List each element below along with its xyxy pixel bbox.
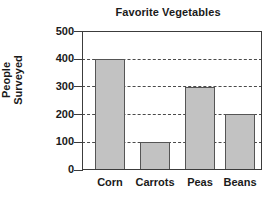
y-axis-title: People Surveyed — [0, 30, 40, 130]
bar-beans[interactable] — [225, 114, 255, 170]
x-axis-tick-labels: Corn Carrots Peas Beans — [82, 176, 262, 194]
x-tick-label-beans: Beans — [210, 176, 270, 188]
bars-layer — [82, 31, 262, 170]
y-tick-label-500: 500 — [40, 26, 74, 37]
bar-peas[interactable] — [185, 87, 215, 170]
y-tick-label-100: 100 — [40, 136, 74, 147]
y-axis-title-line-1: People — [0, 30, 12, 130]
y-tick-label-300: 300 — [40, 81, 74, 92]
plot-area — [82, 31, 262, 170]
bar-corn[interactable] — [95, 59, 125, 170]
bar-carrots[interactable] — [140, 142, 170, 170]
chart-title: Favorite Vegetables — [70, 6, 266, 18]
bar-chart-figure: Favorite Vegetables People Surveyed 500 … — [0, 0, 277, 212]
y-tick-label-400: 400 — [40, 53, 74, 64]
y-tick-mark-0 — [74, 170, 83, 171]
y-tick-label-0: 0 — [40, 164, 74, 175]
y-axis-tick-labels: 500 400 300 200 100 0 — [38, 0, 74, 212]
y-axis-title-line-2: Surveyed — [12, 30, 24, 130]
y-tick-label-200: 200 — [40, 109, 74, 120]
